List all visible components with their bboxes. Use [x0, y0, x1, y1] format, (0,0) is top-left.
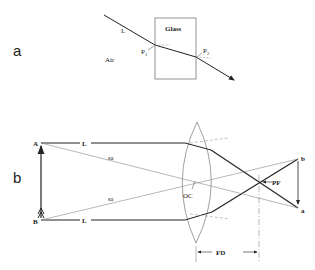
- point-p2-label: P2: [203, 47, 209, 56]
- oc-pointer: [192, 181, 195, 189]
- secondary-axis-top-label: sa: [108, 154, 114, 161]
- panel-a-label: a: [13, 42, 22, 59]
- image-bottom-label: a: [301, 207, 305, 215]
- secondary-axis-bottom: [41, 159, 298, 220]
- secondary-axis-top: [41, 143, 298, 208]
- focal-distance-label: FD: [216, 249, 225, 257]
- refracted-ray: [155, 45, 196, 57]
- bottom-ray-in-lens: [185, 212, 212, 220]
- top-ray-in-lens: [185, 143, 211, 150]
- top-ray-label: L: [82, 140, 87, 148]
- emergent-ray: [196, 57, 234, 80]
- ray-label-L: L: [121, 27, 125, 35]
- p2-pointer: [197, 53, 202, 57]
- incident-ray: [104, 15, 155, 45]
- optical-center-label: OC: [183, 192, 193, 200]
- point-B-label: B: [33, 218, 38, 226]
- optics-diagram: a Glass Air L P1 P2 b A B L: [0, 0, 315, 270]
- image-top-label: b: [301, 155, 305, 163]
- panel-b-label: b: [13, 169, 21, 186]
- panel-a: a Glass Air L P1 P2: [13, 15, 234, 80]
- secondary-axis-bottom-label: sa: [108, 195, 114, 202]
- top-normal: [190, 138, 228, 143]
- glass-label: Glass: [165, 25, 182, 33]
- point-A-label: A: [33, 140, 38, 148]
- top-ray-refracted: [211, 150, 298, 208]
- panel-b: b A B L L sa sa OC PF: [13, 122, 305, 262]
- air-label: Air: [105, 56, 115, 64]
- bottom-ray-refracted: [212, 159, 298, 212]
- p1-pointer: [148, 46, 154, 50]
- bottom-ray-label: L: [82, 217, 87, 225]
- principal-focus-label: PF: [272, 179, 281, 187]
- point-p1-label: P1: [141, 48, 147, 57]
